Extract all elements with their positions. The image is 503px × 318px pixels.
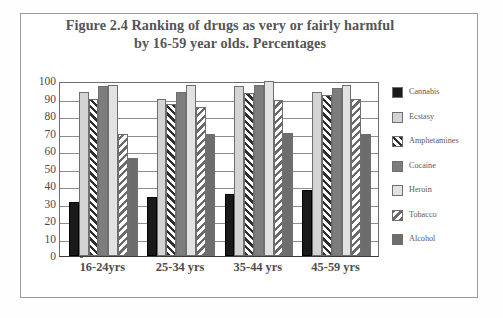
legend-label: Alcohol — [409, 233, 435, 245]
bar-cannabis-group-4 — [302, 190, 312, 256]
bar-alcohol-group-3 — [283, 133, 293, 256]
x-axis-tick-label-4: 45-59 yrs — [287, 260, 384, 274]
legend-label: Cocaine — [409, 160, 436, 172]
bar-tobacco-group-2 — [196, 107, 206, 256]
bar-heroin-group-3 — [264, 81, 274, 256]
bar-cannabis-group-3 — [225, 194, 235, 256]
bar-ecstasy-group-4 — [312, 92, 322, 257]
bar-ecstasy-group-1 — [79, 92, 89, 257]
legend-swatch-icon — [392, 210, 403, 221]
bars-layer — [60, 83, 378, 256]
legend-label: Ecstasy — [409, 111, 434, 123]
chart-title-line-2: by 16-59 year olds. Percentages — [30, 34, 430, 52]
legend-item-tobacco: Tobacco — [392, 209, 472, 234]
y-axis-tick-label: 20 — [26, 216, 56, 228]
chart-title-line-1: Figure 2.4 Ranking of drugs as very or f… — [30, 16, 430, 34]
chart-title: Figure 2.4 Ranking of drugs as very or f… — [30, 16, 430, 52]
y-axis-tick-label: 10 — [26, 234, 56, 246]
legend-label: Cannabis — [409, 86, 439, 98]
y-axis-tick-label: 40 — [26, 181, 56, 193]
bar-cocaine-group-3 — [254, 85, 264, 257]
legend-item-cocaine: Cocaine — [392, 160, 472, 185]
y-axis-tick-mark — [80, 257, 83, 258]
bar-cocaine-group-4 — [332, 88, 342, 256]
bar-tobacco-group-4 — [351, 99, 361, 257]
legend-item-amphetamines: Amphetamines — [392, 135, 472, 160]
legend-swatch-icon — [392, 161, 403, 172]
bar-heroin-group-4 — [342, 85, 352, 257]
bar-cocaine-group-1 — [98, 86, 108, 256]
bar-ecstasy-group-2 — [157, 99, 167, 257]
bar-cannabis-group-2 — [147, 197, 157, 257]
legend-label: Tobacco — [409, 209, 437, 221]
bar-alcohol-group-4 — [361, 134, 371, 257]
y-axis-tick-label: 50 — [26, 164, 56, 176]
y-axis-tick-label: 80 — [26, 111, 56, 123]
bar-alcohol-group-2 — [206, 134, 216, 256]
legend-swatch-icon — [392, 185, 403, 196]
bar-amphetamines-group-1 — [89, 99, 99, 257]
y-axis-tick-label: 100 — [26, 76, 56, 88]
y-axis-tick-label: 60 — [26, 146, 56, 158]
legend-item-ecstasy: Ecstasy — [392, 111, 472, 136]
x-axis-tick-labels: 16-24yrs25-34 yrs35-44 yrs45-59 yrs — [59, 260, 379, 280]
y-axis-tick-labels: 0102030405060708090100 — [24, 82, 56, 257]
bar-ecstasy-group-3 — [234, 86, 244, 256]
bar-cocaine-group-2 — [176, 92, 186, 257]
bar-amphetamines-group-3 — [244, 93, 254, 256]
legend-swatch-icon — [392, 112, 403, 123]
chart-legend: CannabisEcstasyAmphetaminesCocaineHeroin… — [392, 86, 472, 258]
bar-tobacco-group-3 — [274, 100, 284, 256]
y-axis-tick-label: 70 — [26, 129, 56, 141]
bar-amphetamines-group-4 — [322, 95, 332, 256]
y-axis-tick-label: 90 — [26, 94, 56, 106]
legend-item-heroin: Heroin — [392, 184, 472, 209]
bar-cannabis-group-1 — [69, 202, 79, 256]
legend-swatch-icon — [392, 136, 403, 147]
legend-item-alcohol: Alcohol — [392, 233, 472, 258]
bar-heroin-group-1 — [108, 85, 118, 257]
legend-label: Amphetamines — [409, 135, 459, 147]
legend-label: Heroin — [409, 184, 432, 196]
legend-item-cannabis: Cannabis — [392, 86, 472, 111]
y-axis-tick-label: 30 — [26, 199, 56, 211]
bar-tobacco-group-1 — [118, 134, 128, 257]
bar-alcohol-group-1 — [128, 158, 138, 256]
figure-container: Figure 2.4 Ranking of drugs as very or f… — [0, 0, 503, 318]
legend-swatch-icon — [392, 87, 403, 98]
legend-swatch-icon — [392, 234, 403, 245]
y-axis-tick-label: 0 — [26, 251, 56, 263]
bar-amphetamines-group-2 — [166, 104, 176, 256]
bar-heroin-group-2 — [186, 85, 196, 257]
plot-area — [59, 82, 379, 257]
